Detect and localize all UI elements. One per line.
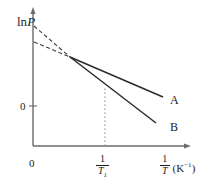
line-a-extrapolation [34,26,70,57]
series-label-b: B [170,121,178,133]
x-axis-label-numerator: 1 [160,154,170,165]
series-label-a: A [170,94,179,106]
y-axis-arrow-icon [31,7,36,14]
x-axis-label-fraction: 1 T [160,154,170,176]
x-axis-label-denominator: T [160,165,170,177]
x-axis-label-units: (K−1) [173,161,196,174]
line-a [70,57,163,97]
y-tick-label-zero: 0 [20,101,26,112]
y-axis-label-prefix: ln [17,14,27,29]
origin-label: 0 [29,158,35,169]
x-tick-denominator: T1 [96,165,109,179]
y-axis-label: lnP [17,15,35,28]
x-tick-label-one-over-t1: 1 T1 [96,154,109,179]
x-tick-denominator-subscript: 1 [104,171,108,179]
x-axis-units-close: ) [192,161,196,173]
x-axis-units-exponent: −1 [184,161,191,169]
x-tick-numerator: 1 [96,154,109,165]
x-axis-arrow-icon [184,144,191,149]
line-b [70,57,156,123]
line-b-extrapolation [34,42,70,57]
x-axis-label: 1 T (K−1) [160,154,195,176]
arrhenius-plot-figure: lnP 0 0 1 T1 1 T (K−1) A B [0,0,207,188]
x-axis-units-open: (K [173,161,185,173]
y-axis-label-variable: P [27,14,35,29]
